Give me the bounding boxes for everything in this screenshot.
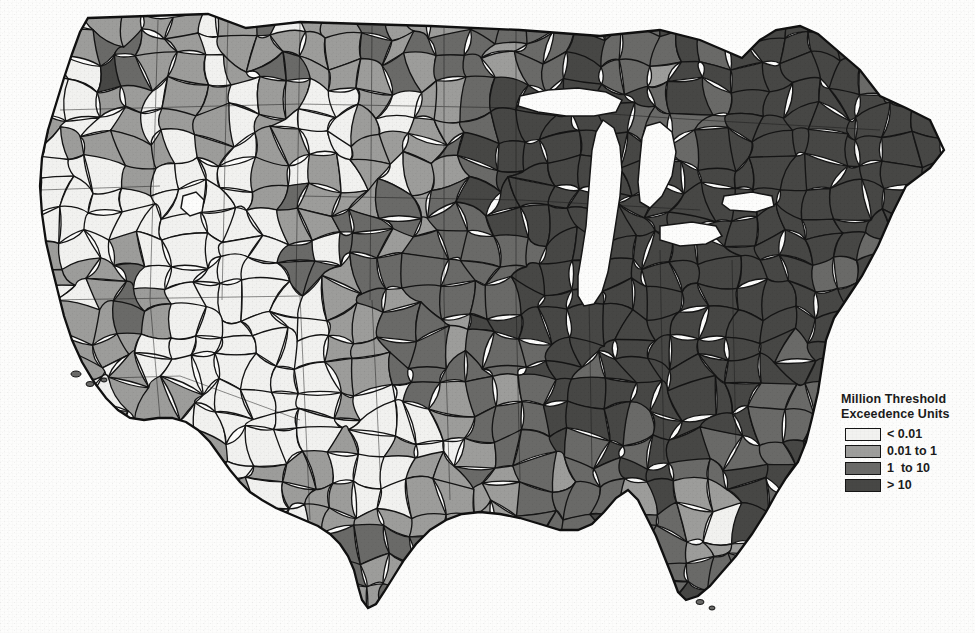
legend-item-label: < 0.01: [887, 428, 922, 441]
legend-item-label: > 10: [887, 479, 912, 492]
us-watershed-choropleth-map: [0, 0, 975, 633]
legend-item[interactable]: > 10: [845, 477, 973, 493]
legend-item[interactable]: 0.01 to 1: [845, 443, 973, 459]
legend-title-line-1: Million Threshold: [841, 392, 973, 407]
legend-item-label: 1 to 10: [887, 462, 930, 475]
map-legend: Million Threshold Exceedence Units < 0.0…: [841, 392, 973, 494]
legend-swatch-icon: [845, 428, 881, 441]
map-page: Million Threshold Exceedence Units < 0.0…: [0, 0, 975, 633]
legend-class-list: < 0.01 0.01 to 1 1 to 10 > 10: [845, 426, 973, 493]
legend-swatch-icon: [845, 462, 881, 475]
legend-swatch-icon: [845, 479, 881, 492]
legend-swatch-icon: [845, 445, 881, 458]
legend-item[interactable]: 1 to 10: [845, 460, 973, 476]
legend-item-label: 0.01 to 1: [887, 445, 937, 458]
legend-title-line-2: Exceedence Units: [841, 407, 973, 422]
legend-item[interactable]: < 0.01: [845, 426, 973, 442]
